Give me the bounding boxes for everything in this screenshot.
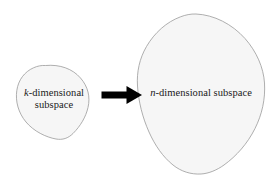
k-suffix: -dimensional	[29, 87, 84, 98]
arrow-shaft	[102, 92, 130, 99]
n-suffix: -dimensional subspace	[155, 87, 251, 98]
k-second-line: subspace	[35, 99, 73, 110]
k-dimensional-subspace-label: k-dimensional subspace	[12, 87, 96, 110]
subspace-mapping-diagram: k-dimensional subspace n-dimensional sub…	[0, 0, 276, 178]
n-dimensional-subspace-label: n-dimensional subspace	[136, 87, 266, 99]
